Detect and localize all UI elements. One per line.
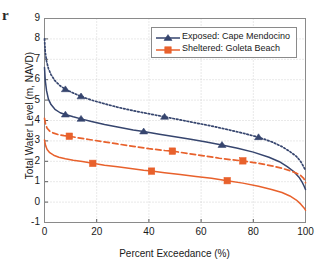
y-tick-label: 1 — [14, 175, 40, 186]
y-tick-label: 4 — [14, 114, 40, 125]
legend-label: Sheltered: Goleta Beach — [181, 42, 280, 54]
y-tick-label: 5 — [14, 94, 40, 105]
chart-legend: Exposed: Cape MendocinoSheltered: Goleta… — [151, 27, 297, 58]
y-tick-label: 0 — [14, 196, 40, 207]
x-tick-label: 0 — [30, 226, 60, 237]
figure-container: r Total Water Level (m, NAVD) Percent Ex… — [0, 0, 325, 270]
y-tick-label: 8 — [14, 32, 40, 43]
legend-item[interactable]: Sheltered: Goleta Beach — [155, 42, 293, 54]
y-tick-label: 2 — [14, 155, 40, 166]
marker-square — [169, 148, 175, 154]
x-tick-label: 100 — [291, 226, 321, 237]
legend-item[interactable]: Exposed: Cape Mendocino — [155, 30, 293, 42]
x-tick-label: 60 — [186, 226, 216, 237]
marker-square — [240, 158, 246, 164]
legend-label: Exposed: Cape Mendocino — [181, 30, 290, 42]
marker-square — [90, 160, 96, 166]
x-tick-label: 80 — [238, 226, 268, 237]
x-tick-label: 20 — [82, 226, 112, 237]
y-tick-label: 7 — [14, 53, 40, 64]
data-series-group — [45, 39, 306, 210]
x-tick-label: 40 — [134, 226, 164, 237]
marker-square — [224, 177, 230, 183]
y-tick-label: 9 — [14, 12, 40, 23]
legend-line-sample — [155, 30, 181, 42]
marker-square — [148, 168, 154, 174]
series-line-1 — [45, 67, 306, 189]
y-tick-label: 3 — [14, 134, 40, 145]
y-tick-label: 6 — [14, 73, 40, 84]
marker-square — [165, 47, 171, 53]
legend-line-sample — [155, 42, 181, 54]
marker-square — [66, 133, 72, 139]
